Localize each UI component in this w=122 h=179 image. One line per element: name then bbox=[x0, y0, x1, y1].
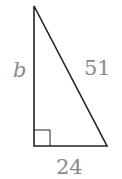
vertical-leg-label: b bbox=[13, 60, 26, 81]
hypotenuse-label: 51 bbox=[84, 58, 111, 79]
triangle-diagram: b 51 24 bbox=[0, 0, 122, 179]
base-label: 24 bbox=[56, 157, 83, 178]
right-angle-marker bbox=[34, 130, 50, 146]
triangle-figure bbox=[0, 0, 122, 179]
